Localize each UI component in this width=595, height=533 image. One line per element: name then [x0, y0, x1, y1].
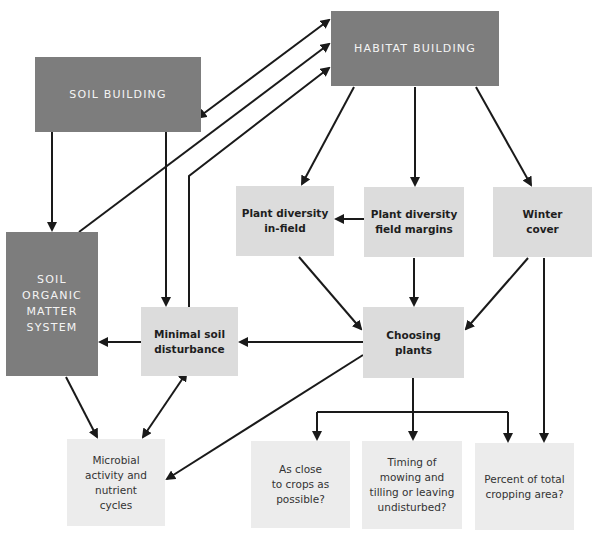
- microbial-activity-label: Microbial activity and nutrient cycles: [85, 453, 147, 513]
- plant-diversity-infield-label: Plant diversity in-field: [242, 206, 329, 236]
- winter-cover-box: Winter cover: [493, 187, 592, 257]
- edge-habitat-infield: [302, 87, 354, 184]
- edge-winter-choosing: [466, 258, 528, 329]
- edge-habitat-winter: [476, 87, 531, 185]
- timing-of-mowing-label: Timing of mowing and tilling or leaving …: [370, 455, 455, 515]
- choosing-plants-box: Choosing plants: [363, 307, 464, 378]
- soil-building-label: SOIL BUILDING: [69, 87, 167, 103]
- edge-msd-microbial: [143, 378, 183, 437]
- as-close-to-crops-box: As close to crops as possible?: [251, 441, 350, 528]
- flow-diagram: HABITAT BUILDING SOIL BUILDING SOIL ORGA…: [0, 0, 595, 533]
- winter-cover-label: Winter cover: [523, 207, 563, 237]
- plant-diversity-margins-box: Plant diversity field margins: [364, 187, 464, 257]
- edge-soil-habitat: [203, 20, 329, 114]
- edge-infield-choosing: [299, 257, 361, 329]
- as-close-to-crops-label: As close to crops as possible?: [272, 462, 330, 507]
- percent-cropping-area-label: Percent of total cropping area?: [484, 472, 564, 502]
- minimal-soil-disturbance-box: Minimal soil disturbance: [141, 307, 238, 376]
- plant-diversity-infield-box: Plant diversity in-field: [236, 186, 334, 256]
- percent-cropping-area-box: Percent of total cropping area?: [475, 443, 574, 530]
- habitat-building-label: HABITAT BUILDING: [354, 41, 476, 57]
- timing-of-mowing-box: Timing of mowing and tilling or leaving …: [362, 441, 462, 529]
- habitat-building-box: HABITAT BUILDING: [331, 11, 499, 86]
- soil-organic-matter-label: SOIL ORGANIC MATTER SYSTEM: [22, 272, 82, 336]
- microbial-activity-box: Microbial activity and nutrient cycles: [67, 439, 165, 526]
- choosing-plants-label: Choosing plants: [386, 328, 440, 358]
- minimal-soil-disturbance-label: Minimal soil disturbance: [154, 327, 225, 357]
- plant-diversity-margins-label: Plant diversity field margins: [371, 207, 458, 237]
- soil-organic-matter-box: SOIL ORGANIC MATTER SYSTEM: [6, 232, 98, 376]
- edge-som-microbial: [66, 377, 97, 437]
- soil-building-box: SOIL BUILDING: [35, 57, 201, 132]
